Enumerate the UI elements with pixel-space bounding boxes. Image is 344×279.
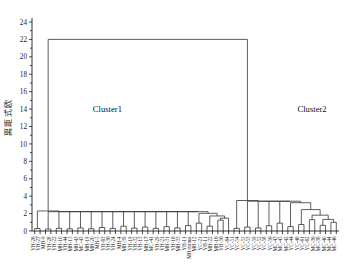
- dendrogram-link: [291, 203, 311, 227]
- y-tick-label: 2: [23, 210, 27, 218]
- dendrogram-link: [142, 227, 147, 231]
- cluster-annotation: Cluster1: [93, 104, 122, 114]
- cluster-annotations: Cluster1Cluster2: [93, 104, 327, 114]
- dendrogram-link: [210, 216, 225, 226]
- dendrogram-link: [277, 223, 282, 231]
- y-tick-label: 12: [20, 123, 28, 131]
- y-tick-label: 4: [23, 193, 27, 201]
- leaf-labels: YH-26YH-27MH-9YH-28YH-22MH-10YH-44MH-15M…: [30, 236, 338, 259]
- dendrogram-link: [299, 224, 304, 231]
- y-tick-label: 8: [23, 158, 27, 166]
- dendrogram-link: [186, 226, 191, 231]
- y-axis-title-char: 欧: [3, 100, 13, 108]
- dendrogram-link: [266, 226, 271, 231]
- dendrogram-link: [48, 39, 247, 211]
- dendrogram-link: [175, 228, 180, 231]
- y-tick-label: 22: [20, 36, 28, 44]
- y-axis-title-char: 式: [3, 109, 13, 117]
- dendrogram-link: [218, 220, 223, 231]
- dendrogram-link: [99, 228, 104, 231]
- dendrogram-link: [245, 227, 250, 231]
- leaf-label: MC-46: [331, 236, 337, 251]
- dendrogram-link: [256, 228, 261, 231]
- y-tick-label: 10: [20, 141, 28, 149]
- y-axis: 024681012141618202224: [20, 18, 32, 236]
- y-axis-title: 欧式距离: [3, 100, 13, 136]
- dendrogram-link: [331, 222, 336, 231]
- dendrogram-link: [288, 227, 293, 231]
- dendrogram-link: [164, 227, 169, 231]
- dendrogram-link: [78, 228, 83, 231]
- dendrogram-link: [301, 210, 320, 225]
- dendrogram-link: [312, 215, 328, 220]
- y-tick-label: 0: [23, 228, 27, 236]
- x-axis: [32, 231, 339, 234]
- y-tick-label: 20: [20, 53, 28, 61]
- dendrogram-link: [207, 226, 212, 231]
- y-tick-label: 24: [20, 19, 28, 27]
- dendrogram-link: [309, 220, 314, 231]
- y-tick-label: 18: [20, 71, 28, 79]
- y-tick-label: 6: [23, 175, 27, 183]
- dendrogram-link: [196, 223, 201, 231]
- y-tick-label: 14: [20, 106, 28, 114]
- dendrogram-link: [320, 225, 325, 231]
- dendrogram-chart: 024681012141618202224 YH-26YH-27MH-9YH-2…: [0, 0, 344, 279]
- dendrogram-link: [121, 226, 126, 231]
- dendrogram-svg: 024681012141618202224 YH-26YH-27MH-9YH-2…: [0, 0, 344, 279]
- cluster-annotation: Cluster2: [298, 104, 327, 114]
- y-axis-title-char: 离: [3, 128, 13, 136]
- y-axis-title-char: 距: [4, 119, 13, 127]
- dendrogram-links: [35, 39, 337, 231]
- y-tick-label: 16: [20, 88, 28, 96]
- dendrogram-link: [199, 213, 217, 223]
